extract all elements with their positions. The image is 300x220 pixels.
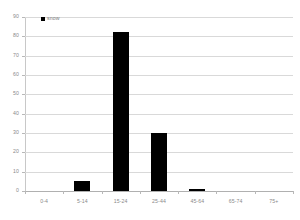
x-axis-tick-mark <box>255 191 256 194</box>
y-axis-tick-label: 20 <box>0 150 19 155</box>
x-axis-tick-label: 75+ <box>269 199 278 204</box>
x-axis-tick-mark <box>140 191 141 194</box>
bar <box>74 181 90 191</box>
bar <box>113 32 129 191</box>
y-axis-tick-label: 10 <box>0 169 19 174</box>
y-axis-tick-label: 60 <box>0 72 19 77</box>
y-axis-tick-label: 50 <box>0 92 19 97</box>
x-axis-tick-label: 5-14 <box>77 199 88 204</box>
y-axis-tick-label: 0 <box>0 188 19 193</box>
x-axis-tick-mark <box>63 191 64 194</box>
bar-chart: 0102030405060708090 0-45-1415-2425-4445-… <box>0 0 300 220</box>
gridline <box>25 191 293 192</box>
x-axis-tick-label: 65-74 <box>229 199 243 204</box>
bar <box>151 133 167 191</box>
y-axis-tick-label: 40 <box>0 111 19 116</box>
x-axis-tick-label: 15-24 <box>114 199 128 204</box>
x-axis-tick-label: 25-44 <box>152 199 166 204</box>
x-axis-tick-mark <box>178 191 179 194</box>
x-axis-tick-mark <box>102 191 103 194</box>
chart-legend: snow <box>41 16 60 21</box>
y-axis-tick-label: 30 <box>0 130 19 135</box>
x-axis-tick-mark <box>216 191 217 194</box>
x-axis-tick-mark <box>293 191 294 194</box>
y-axis-tick-label: 90 <box>0 14 19 19</box>
legend-swatch-icon <box>41 17 45 21</box>
x-axis-tick-label: 0-4 <box>40 199 48 204</box>
y-axis-tick-label: 80 <box>0 34 19 39</box>
y-axis-tick-label: 70 <box>0 53 19 58</box>
x-axis-tick-mark <box>25 191 26 194</box>
legend-label: snow <box>47 16 60 21</box>
bar <box>189 189 205 191</box>
bars-group <box>25 17 293 191</box>
x-axis-tick-label: 45-64 <box>190 199 204 204</box>
